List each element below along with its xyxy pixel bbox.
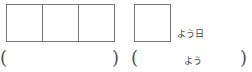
kanji-box-4[interactable]	[134, 4, 171, 42]
reading-hint: よう	[184, 54, 202, 67]
suffix-label: よう日	[177, 27, 204, 40]
open-paren: (	[131, 49, 138, 67]
open-paren: (	[0, 49, 7, 67]
close-paren: )	[240, 49, 247, 67]
kanji-box-3[interactable]	[78, 4, 115, 42]
kanji-box-1[interactable]	[6, 4, 43, 42]
close-paren: )	[112, 49, 119, 67]
kanji-box-2[interactable]	[42, 4, 79, 42]
